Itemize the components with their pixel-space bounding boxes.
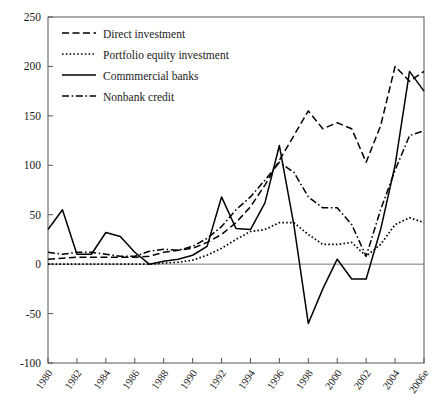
y-tick-label: -100 [20,357,41,369]
chart-figure: 250200150100500-50-100 19801982198419861… [0,0,436,416]
y-tick-label: -50 [26,308,42,320]
x-axis-ticks [48,358,424,363]
y-tick-label: 150 [24,110,42,122]
x-axis-labels: 1980198219841986198819901992199419961998… [34,367,431,395]
y-axis-ticks [48,17,53,363]
series-line-commmercial-banks [48,71,424,323]
legend-label: Direct investment [103,28,186,40]
x-tick-label: 2002 [352,368,373,392]
y-tick-label: 50 [30,209,42,221]
x-tick-label: 1994 [236,367,257,391]
legend-label: Portfolio equity investment [103,49,230,62]
y-axis-labels: 250200150100500-50-100 [20,11,41,369]
x-tick-label: 1980 [34,368,55,392]
x-tick-label: 2006e [407,368,431,396]
x-tick-label: 1992 [207,368,228,392]
y-tick-label: 250 [24,11,42,23]
y-tick-label: 200 [24,60,42,72]
x-tick-label: 2000 [323,368,344,392]
legend-label: Nonbank credit [103,91,175,103]
x-tick-label: 1984 [91,367,112,391]
chart-legend: Direct investmentPortfolio equity invest… [62,28,230,103]
legend-label: Commmercial banks [103,70,199,82]
line-chart-canvas: 250200150100500-50-100 19801982198419861… [0,0,436,416]
x-tick-label: 1990 [178,368,199,392]
series-line-nonbank-credit [48,131,424,257]
series-layer [48,66,424,323]
x-tick-label: 1998 [294,368,315,392]
x-tick-label: 1996 [265,368,286,392]
y-tick-label: 100 [24,159,42,171]
x-tick-label: 1982 [63,368,84,392]
x-tick-label: 1988 [149,368,170,392]
y-tick-label: 0 [35,258,41,270]
x-tick-label: 1986 [120,368,141,392]
x-tick-label: 2004 [381,367,402,391]
